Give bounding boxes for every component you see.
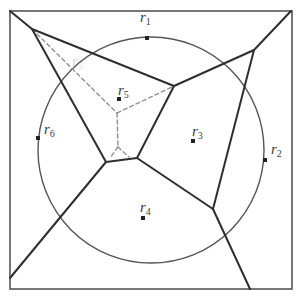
site-r1: r1: [140, 9, 151, 40]
dashed-edge: [117, 113, 118, 147]
solid-edges: [10, 11, 291, 289]
site-dot: [191, 139, 195, 143]
dashed-edge: [118, 147, 129, 157]
voronoi-edge: [213, 50, 254, 209]
site-r6: r6: [36, 121, 55, 140]
voronoi-edge: [213, 209, 250, 289]
site-dot: [141, 216, 145, 220]
voronoi-edge: [254, 11, 291, 50]
site-r3: r3: [191, 123, 203, 143]
dashed-edge: [32, 29, 117, 113]
voronoi-edge: [137, 86, 174, 158]
site-r2: r2: [263, 141, 282, 162]
voronoi-edge: [106, 158, 137, 162]
site-label: r2: [271, 141, 282, 159]
site-label: r3: [192, 123, 203, 141]
site-dot: [145, 36, 149, 40]
site-label: r5: [118, 82, 129, 100]
faded-label: r5: [72, 53, 83, 71]
site-label: r6: [44, 121, 55, 139]
site-dot: [36, 136, 40, 140]
site-r4: r4: [140, 199, 151, 220]
voronoi-edge: [10, 11, 32, 29]
voronoi-diagram: r5 r1r2r3r4r5r6: [0, 0, 302, 302]
voronoi-edge: [137, 158, 213, 209]
dashed-edge: [110, 147, 118, 158]
site-label: r4: [140, 199, 151, 217]
voronoi-edge: [32, 29, 106, 162]
site-r5: r5: [117, 82, 129, 101]
boundary-circle: [38, 37, 264, 263]
site-dot: [263, 158, 267, 162]
voronoi-edge: [10, 162, 106, 278]
